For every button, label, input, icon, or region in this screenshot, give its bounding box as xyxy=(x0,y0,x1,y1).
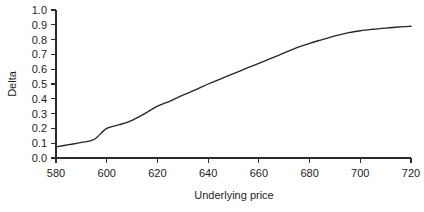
chart-canvas: 0.00.10.20.30.40.50.60.70.80.91.0 580600… xyxy=(0,0,424,212)
delta-series-line xyxy=(56,26,411,147)
y-axis-tick-label: 0.2 xyxy=(32,122,47,134)
x-axis-tick-label: 600 xyxy=(98,167,116,179)
y-axis-tick-label: 0.4 xyxy=(32,93,47,105)
x-axis-tick-label: 640 xyxy=(199,167,217,179)
x-axis-title: Underlying price xyxy=(194,189,273,201)
y-axis-tick-label-group: 0.00.10.20.30.40.50.60.70.80.91.0 xyxy=(32,4,47,164)
x-axis-tick-group xyxy=(56,158,411,163)
x-axis-tick-label: 580 xyxy=(47,167,65,179)
y-axis-tick-label: 0.5 xyxy=(32,78,47,90)
x-axis-tick-label: 620 xyxy=(148,167,166,179)
y-axis-title: Delta xyxy=(6,70,18,97)
y-axis-tick-label: 1.0 xyxy=(32,4,47,16)
x-axis-tick-label: 680 xyxy=(300,167,318,179)
x-axis-tick-label: 720 xyxy=(402,167,420,179)
delta-chart-figure: 0.00.10.20.30.40.50.60.70.80.91.0 580600… xyxy=(0,0,424,212)
x-axis-tick-label: 700 xyxy=(351,167,369,179)
y-axis-tick-label: 0.6 xyxy=(32,63,47,75)
y-axis-tick-label: 0.8 xyxy=(32,34,47,46)
y-axis-tick-label: 0.3 xyxy=(32,108,47,120)
y-axis-tick-group xyxy=(51,10,56,158)
x-axis-tick-label-group: 580600620640660680700720 xyxy=(47,167,420,179)
y-axis-tick-label: 0.9 xyxy=(32,19,47,31)
y-axis-tick-label: 0.0 xyxy=(32,152,47,164)
x-axis-tick-label: 660 xyxy=(250,167,268,179)
y-axis-tick-label: 0.1 xyxy=(32,137,47,149)
y-axis-tick-label: 0.7 xyxy=(32,48,47,60)
